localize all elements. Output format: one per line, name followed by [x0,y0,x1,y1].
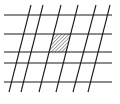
hatched-parallelogram [49,34,71,52]
line-grid-diagram [0,0,120,104]
slanted-line-2 [21,5,43,92]
shaded-cell [49,34,71,52]
slanted-line-5 [73,5,96,92]
slanted-line-6 [88,5,110,92]
slanted-line-1 [9,5,31,92]
